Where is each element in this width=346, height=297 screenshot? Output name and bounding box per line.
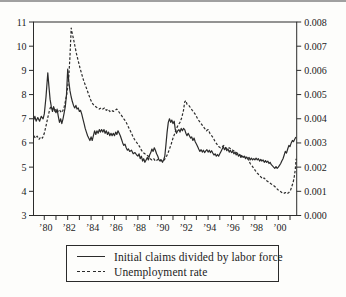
x-tick-label: ’84 — [86, 222, 99, 233]
figure-page: 345678910110.0000.0010.0020.0030.0040.00… — [0, 0, 346, 297]
x-tick-label: ’98 — [250, 222, 263, 233]
plot-frame — [34, 22, 297, 216]
legend-label-unemployment-rate: Unemployment rate — [114, 266, 207, 278]
series-line-initial-claims — [34, 69, 296, 168]
x-tick-label: ’90 — [156, 222, 169, 233]
y-right-tick-label: 0.006 — [304, 65, 327, 76]
x-tick-label: ’80 — [39, 222, 52, 233]
y-left-tick-label: 3 — [22, 210, 27, 221]
y-right-tick-label: 0.007 — [304, 41, 327, 52]
x-tick-label: ’96 — [226, 222, 239, 233]
x-tick-label: ’86 — [109, 222, 122, 233]
dashed-line-swatch — [77, 271, 105, 273]
x-tick-label: ’88 — [133, 222, 146, 233]
y-right-tick-label: 0.004 — [304, 113, 327, 124]
y-left-tick-label: 4 — [22, 186, 27, 197]
dual-axis-line-chart: 345678910110.0000.0010.0020.0030.0040.00… — [0, 0, 346, 242]
x-tick-label: ’92 — [180, 222, 193, 233]
x-tick-label: ’94 — [203, 222, 216, 233]
legend-item-unemployment-rate: Unemployment rate — [77, 264, 278, 279]
y-left-tick-label: 11 — [17, 17, 27, 28]
y-left-tick-label: 10 — [17, 41, 27, 52]
y-left-tick-label: 6 — [22, 137, 27, 148]
chart-legend: Initial claims divided by labor force Un… — [66, 245, 279, 282]
x-tick-label: ’82 — [63, 222, 76, 233]
legend-label-initial-claims: Initial claims divided by labor force — [114, 251, 283, 263]
y-right-tick-label: 0.002 — [304, 162, 327, 173]
series-line-unemployment-rate — [34, 28, 296, 194]
y-left-tick-label: 9 — [22, 65, 27, 76]
y-right-tick-label: 0.005 — [304, 89, 327, 100]
y-left-tick-label: 7 — [22, 113, 27, 124]
x-tick-label: ’00 — [273, 222, 286, 233]
legend-item-initial-claims: Initial claims divided by labor force — [77, 249, 278, 264]
solid-line-swatch — [77, 256, 105, 258]
y-left-tick-label: 8 — [22, 89, 27, 100]
y-right-tick-label: 0.001 — [304, 186, 327, 197]
y-left-tick-label: 5 — [22, 162, 27, 173]
y-right-tick-label: 0.008 — [304, 17, 327, 28]
y-right-tick-label: 0.003 — [304, 137, 327, 148]
y-right-tick-label: 0.000 — [304, 210, 327, 221]
